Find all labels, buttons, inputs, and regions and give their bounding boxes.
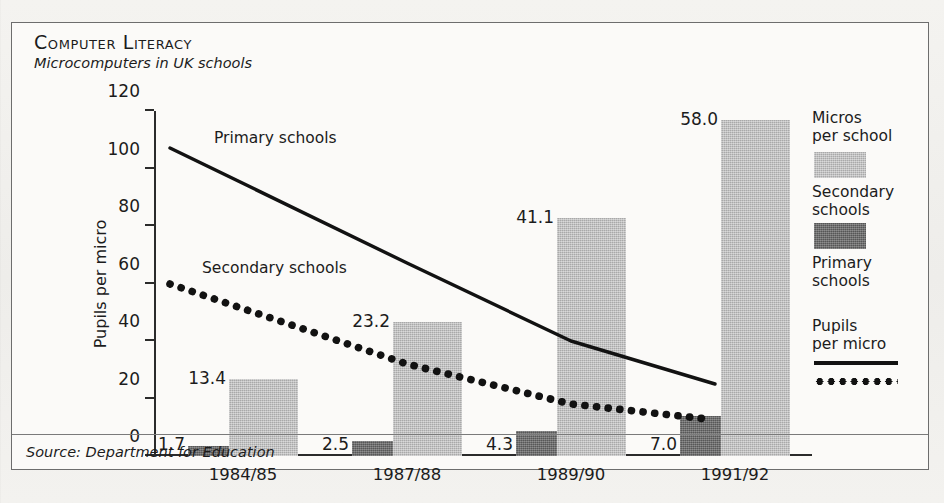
y-tick-label-0: 0	[129, 426, 140, 446]
legend-spacer	[812, 295, 922, 317]
legend-heading-micros-per-school: Micros per school	[812, 109, 922, 146]
x-category-1984-85: 1984/85	[209, 465, 278, 484]
y-tick-20	[145, 397, 154, 399]
legend-label-primary-line2: schools	[812, 272, 922, 290]
y-tick-label-40: 40	[118, 311, 140, 331]
legend: Micros per school Secondary schools Prim…	[812, 109, 922, 385]
annotation-primary-schools: Primary schools	[214, 129, 337, 147]
legend-line-solid-primary	[814, 361, 898, 364]
legend-heading-micros-line2: per school	[812, 127, 922, 145]
y-tick-label-100: 100	[108, 139, 140, 159]
title-block: Computer Literacy Microcomputers in UK s…	[34, 33, 252, 71]
y-tick-label-20: 20	[118, 369, 140, 389]
legend-label-secondary-schools: Secondary schools	[812, 183, 922, 220]
y-tick-40	[145, 339, 154, 341]
line-secondary-pupils-per-micro	[170, 284, 707, 419]
y-tick-label-60: 60	[118, 254, 140, 274]
y-tick-100	[145, 167, 154, 169]
chart-title: Computer Literacy	[34, 33, 252, 53]
x-category-1987-88: 1987/88	[373, 465, 442, 484]
y-tick-label-120: 120	[108, 81, 140, 101]
y-tick-120	[145, 109, 154, 111]
y-tick-80	[145, 224, 154, 226]
line-series-layer	[154, 111, 799, 456]
chart-frame: Computer Literacy Microcomputers in UK s…	[11, 22, 929, 470]
legend-label-primary-schools: Primary schools	[812, 254, 922, 291]
legend-heading-micros-line1: Micros	[812, 109, 922, 127]
x-category-1991-92: 1991/92	[701, 465, 770, 484]
source-divider	[12, 434, 928, 435]
annotation-secondary-schools: Secondary schools	[202, 259, 347, 277]
y-tick-60	[145, 282, 154, 284]
y-axis-title: Pupils per micro	[91, 219, 110, 347]
legend-line-dotted-secondary	[814, 378, 898, 385]
x-category-1989-90: 1989/90	[537, 465, 606, 484]
y-tick-label-80: 80	[118, 196, 140, 216]
source-note: Source: Department for Education	[26, 444, 275, 460]
legend-heading-pupils-line2: per micro	[812, 335, 922, 353]
legend-label-primary-line1: Primary	[812, 254, 922, 272]
plot-area: Pupils per micro 0 20 40 60 80 100 120 1…	[154, 111, 799, 456]
legend-swatch-secondary-schools	[814, 152, 866, 178]
legend-heading-pupils-per-micro: Pupils per micro	[812, 317, 922, 354]
legend-label-secondary-line1: Secondary	[812, 183, 922, 201]
legend-swatch-primary-schools	[814, 223, 866, 249]
legend-label-secondary-line2: schools	[812, 201, 922, 219]
chart-subtitle: Microcomputers in UK schools	[34, 55, 252, 71]
legend-heading-pupils-line1: Pupils	[812, 317, 922, 335]
